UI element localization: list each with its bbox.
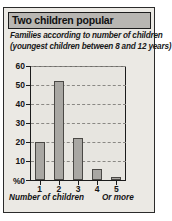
gridline xyxy=(31,66,126,67)
x-axis-tick-label: 4 xyxy=(95,184,100,194)
chart-plot-area: 0102030405060 12345 xyxy=(30,66,126,181)
y-axis-tick-label: 50 xyxy=(16,80,25,90)
x-axis-caption-left: Number of children xyxy=(9,193,84,202)
gridline xyxy=(31,123,126,124)
chart-subtitle: Families according to number of children… xyxy=(10,31,155,52)
y-axis-tick-label: 60 xyxy=(16,61,25,71)
y-axis-line xyxy=(30,66,31,181)
chart-subtitle-line-2: (youngest children between 8 and 12 year… xyxy=(10,42,155,53)
y-axis-tick-label: 20 xyxy=(16,137,25,147)
y-axis-unit-label: % xyxy=(13,176,21,186)
page-title: Two children popular xyxy=(12,14,113,26)
chart-card: Two children popular Families according … xyxy=(3,7,155,213)
bar xyxy=(35,142,45,180)
gridline xyxy=(31,85,126,86)
bar xyxy=(54,81,64,180)
y-axis-tick-label: 30 xyxy=(16,118,25,128)
x-axis-line xyxy=(30,180,126,181)
bar xyxy=(73,138,83,180)
y-axis-tick-label: 10 xyxy=(16,156,25,166)
y-axis-tick-label: 40 xyxy=(16,99,25,109)
x-axis-caption-right: Or more xyxy=(102,193,134,202)
bar xyxy=(92,169,102,180)
chart-subtitle-line-1: Families according to number of children xyxy=(10,31,155,42)
gridline xyxy=(31,104,126,105)
chart-title-bar: Two children popular xyxy=(8,12,151,29)
